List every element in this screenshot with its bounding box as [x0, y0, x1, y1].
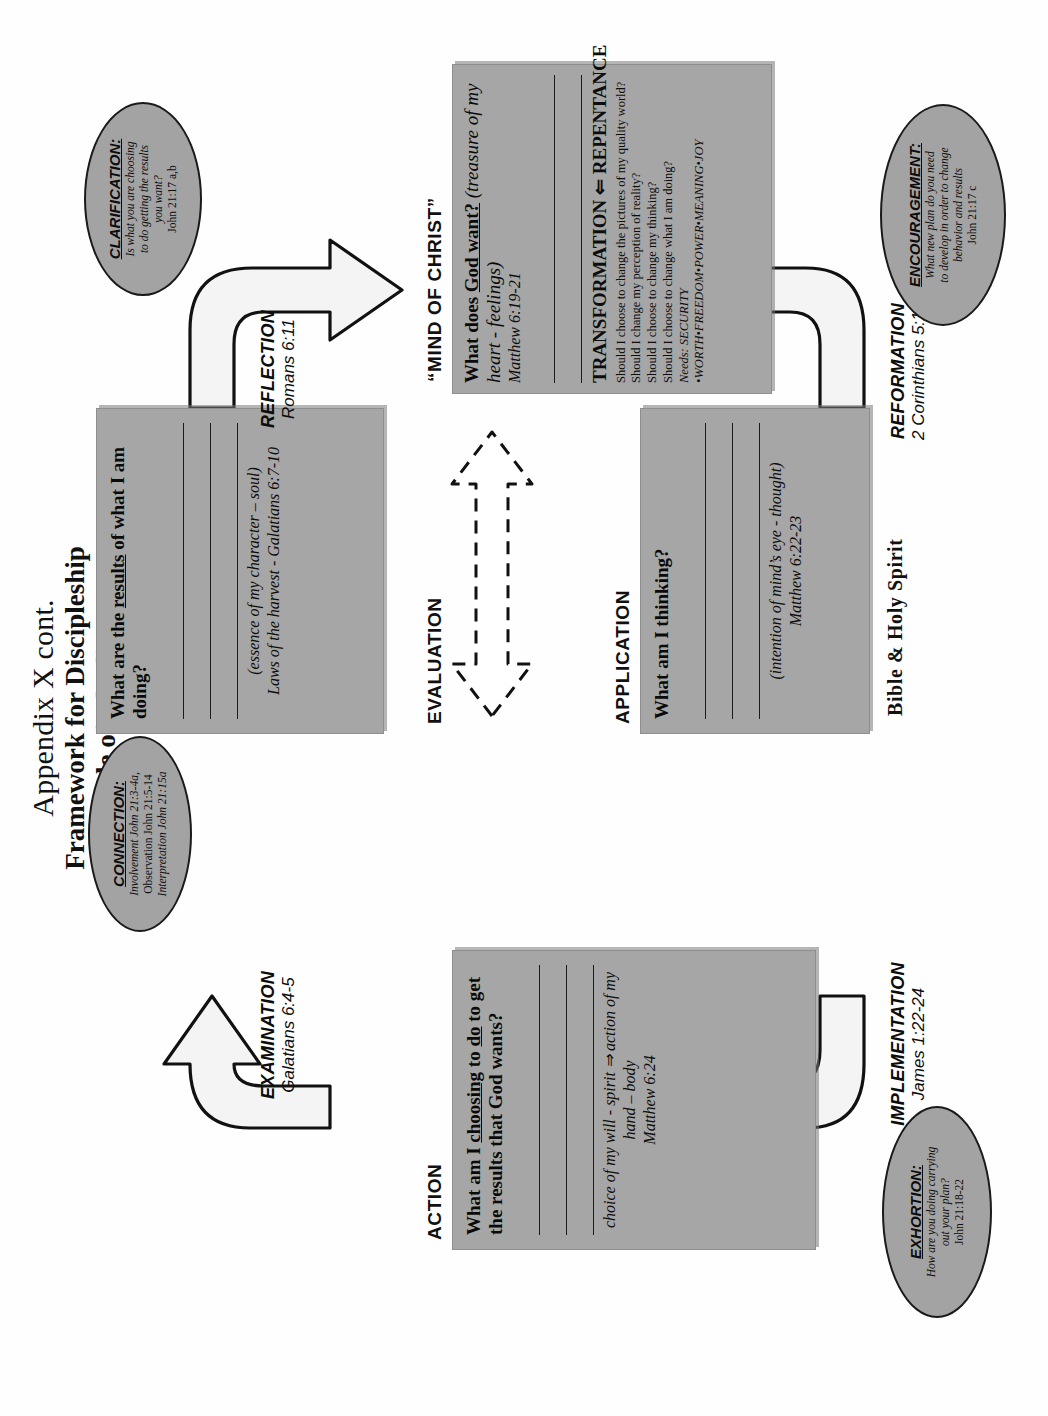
label-reflection: REFLECTION Romans 6:11 [258, 274, 299, 464]
oval-exhortion-line: How are you doing carrying [925, 1147, 939, 1278]
evaluation-note-line2: Laws of the harvest - Galatians 6:7-10 [264, 423, 284, 719]
oval-encouragement-line: to develop in order to change [938, 147, 952, 282]
arrow-examination [164, 996, 330, 1128]
oval-clarification-line: Is what you are choosing [124, 141, 138, 256]
box-evaluation: What are the results of what I am doing?… [96, 408, 384, 734]
diagram-page: Appendix X cont. Framework for Disciples… [0, 0, 1048, 1416]
box-application: What am I thinking? (intention of mind’s… [640, 408, 870, 734]
label-reflection-name: REFLECTION [258, 274, 279, 464]
oval-encouragement-line: John 21:17 c [966, 186, 980, 245]
oval-connection-line: Interpretation John 21:15a [156, 772, 170, 897]
oval-encouragement-line: What new plan do you need [924, 151, 938, 278]
oval-clarification-line: to do getting the results [138, 145, 152, 253]
oval-encouragement-heading: ENCOURAGEMENT: [906, 143, 923, 287]
oval-connection-line: Observation John 21:5-14 [142, 774, 156, 893]
oval-exhortion-line: John 21:18-22 [953, 1179, 967, 1245]
action-note-line1: choice of my will - spirit ⇒ action of m… [600, 965, 640, 1235]
label-reflection-verse: Romans 6:11 [279, 274, 299, 464]
oval-clarification-line: you want? [152, 175, 166, 223]
transformation-bullets: Should I choose to change the pictures o… [614, 75, 677, 383]
arrow-dashed-bidirectional [452, 432, 532, 716]
evaluation-write-lines[interactable] [157, 423, 238, 719]
mind-of-christ-question: What does God want? (treasure of my hear… [461, 75, 505, 383]
label-examination-name: EXAMINATION [258, 940, 279, 1130]
application-note-line2: Matthew 6:22-23 [786, 423, 806, 719]
application-note: (intention of mind’s eye - thought) Matt… [766, 423, 806, 719]
oval-encouragement: ENCOURAGEMENT: What new plan do you need… [880, 104, 1006, 326]
mind-of-christ-write-lines[interactable] [528, 75, 582, 383]
oval-clarification: CLARIFICATION: Is what you are choosing … [84, 102, 202, 296]
transformation-heading: TRANSFORMATION ⇐ REPENTANCE [588, 75, 611, 383]
action-note-line2: Matthew 6:24 [640, 965, 660, 1235]
caption-mind-of-christ: “MIND OF CHRIST” [424, 197, 446, 382]
oval-clarification-line: John 21:17 a,b [166, 165, 180, 232]
oval-exhortion-line: out your plan? [939, 1178, 953, 1246]
oval-connection-line: Involvement John 21:3-4a, [128, 772, 142, 896]
evaluation-note-line1: (essence of my character – soul) [244, 423, 264, 719]
caption-application: APPLICATION [612, 590, 634, 724]
mind-of-christ-verse: Matthew 6:19-21 [506, 75, 524, 383]
evaluation-note: (essence of my character – soul) Laws of… [244, 423, 284, 719]
oval-connection: CONNECTION: Involvement John 21:3-4a, Ob… [88, 736, 192, 932]
oval-connection-heading: CONNECTION: [110, 781, 127, 887]
transformation-bullet: Should I change my perception of reality… [629, 75, 645, 383]
transformation-needs: Needs: SECURITY •WORTH•FREEDOM•POWER•MEA… [677, 75, 707, 383]
label-examination: EXAMINATION Galatians 6:4-5 [258, 940, 299, 1130]
box-action: What am I choosing to do to get the resu… [452, 950, 816, 1250]
label-implementation-name: IMPLEMENTATION [888, 938, 909, 1150]
evaluation-question: What are the results of what I am doing? [107, 423, 151, 719]
action-write-lines[interactable] [513, 965, 594, 1235]
application-write-lines[interactable] [679, 423, 760, 719]
label-examination-verse: Galatians 6:4-5 [279, 940, 299, 1130]
oval-clarification-heading: CLARIFICATION: [106, 139, 123, 260]
oval-encouragement-line: behavior and results [952, 168, 966, 262]
caption-bible-holy-spirit: Bible & Holy Spirit [884, 538, 907, 716]
action-question: What am I choosing to do to get the resu… [463, 965, 507, 1235]
application-note-line1: (intention of mind’s eye - thought) [766, 423, 786, 719]
transformation-bullet: Should I choose to change the pictures o… [614, 75, 630, 383]
oval-exhortion: EXHORTION: How are you doing carrying ou… [882, 1106, 992, 1318]
caption-action: ACTION [424, 1164, 446, 1240]
oval-exhortion-heading: EXHORTION: [907, 1165, 924, 1259]
transformation-bullet: Should I choose to change what I am doin… [661, 75, 677, 383]
caption-evaluation: EVALUATION [424, 597, 446, 724]
box-mind-of-christ: What does God want? (treasure of my hear… [452, 64, 772, 394]
transformation-bullet: Should I choose to change my thinking? [645, 75, 661, 383]
application-question: What am I thinking? [651, 423, 673, 719]
action-note: choice of my will - spirit ⇒ action of m… [600, 965, 660, 1235]
